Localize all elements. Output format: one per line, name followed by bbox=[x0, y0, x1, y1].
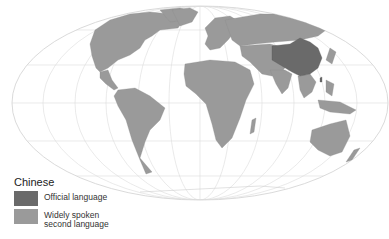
legend-label-official: Official language bbox=[44, 191, 107, 202]
legend-title: Chinese bbox=[14, 176, 109, 188]
second-language-swatch bbox=[14, 209, 38, 224]
legend-label-second: Widely spoken second language bbox=[44, 209, 109, 229]
legend-label-second-line2: second language bbox=[44, 220, 109, 229]
legend-item-second: Widely spoken second language bbox=[14, 209, 109, 229]
legend-item-official: Official language bbox=[14, 191, 109, 206]
map-legend: Chinese Official language Widely spoken … bbox=[14, 176, 109, 232]
official-language-swatch bbox=[14, 191, 38, 206]
